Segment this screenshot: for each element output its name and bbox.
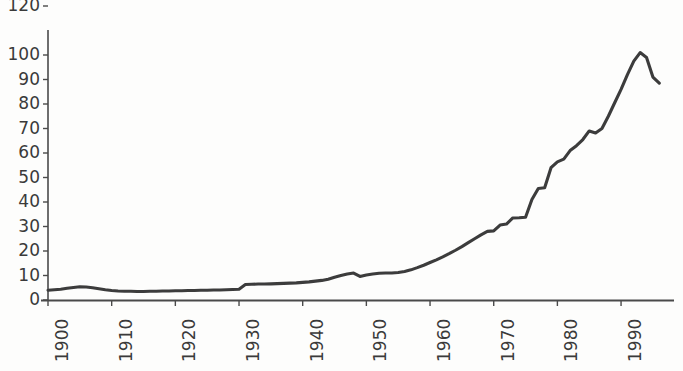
x-axis-tick-label: 1990 <box>627 319 644 362</box>
x-axis-tick-label: 1930 <box>245 319 262 362</box>
x-axis-tick-label: 1970 <box>500 319 517 362</box>
y-axis-tick-label: 90 <box>0 71 40 88</box>
y-axis-tick-label: 40 <box>0 193 40 210</box>
x-axis-tick-label: 1940 <box>309 319 326 362</box>
y-axis-tick-label: 60 <box>0 144 40 161</box>
x-axis <box>41 300 674 306</box>
x-axis-tick-label: 1960 <box>436 319 453 362</box>
y-axis-tick-label: 70 <box>0 120 40 137</box>
y-axis-tick-label: 30 <box>0 218 40 235</box>
y-axis <box>43 6 48 301</box>
data-series-line <box>48 53 659 292</box>
x-axis-tick-label: 1900 <box>54 319 71 362</box>
y-axis-tick-label: 20 <box>0 242 40 259</box>
y-axis-tick-label: 0 <box>0 291 40 308</box>
x-axis-tick-label: 1950 <box>372 319 389 362</box>
line-chart: 0102030405060708090100120 19001910192019… <box>0 0 683 371</box>
x-axis-tick-label: 1920 <box>181 319 198 362</box>
chart-plot-area <box>0 0 683 371</box>
x-axis-tick-label: 1980 <box>563 319 580 362</box>
y-axis-tick-label: 50 <box>0 169 40 186</box>
y-axis-tick-label: 100 <box>0 46 40 63</box>
y-axis-tick-label: 10 <box>0 267 40 284</box>
y-axis-tick-label: 120 <box>0 0 40 14</box>
x-axis-tick-label: 1910 <box>118 319 135 362</box>
y-axis-tick-label: 80 <box>0 95 40 112</box>
